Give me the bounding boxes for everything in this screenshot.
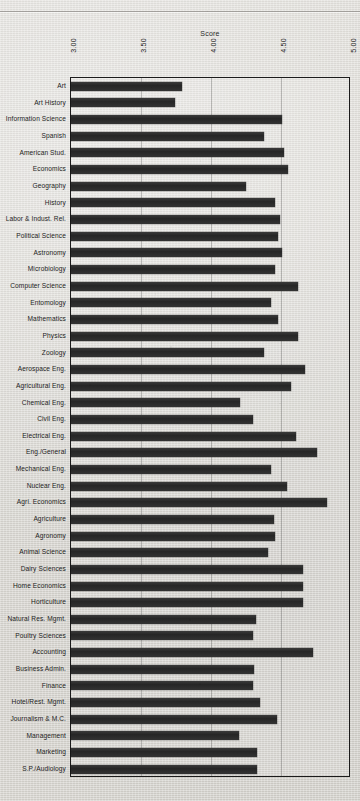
speck xyxy=(188,363,189,364)
bar-row: Information Science xyxy=(71,111,349,128)
speck xyxy=(241,738,242,739)
bar xyxy=(71,631,253,640)
bar xyxy=(71,82,182,91)
bar xyxy=(71,332,298,341)
bar xyxy=(71,148,284,157)
bar xyxy=(71,365,305,374)
speck xyxy=(284,600,285,601)
category-label: American Stud. xyxy=(0,150,71,157)
bar xyxy=(71,565,303,574)
bar-row: Art xyxy=(71,78,349,95)
speck xyxy=(310,438,312,440)
bar xyxy=(71,532,275,541)
x-tick-label: 5.00 xyxy=(350,38,357,53)
category-label: Agriculture xyxy=(0,516,71,523)
category-label: Accounting xyxy=(0,649,71,656)
speck xyxy=(56,719,57,720)
bar-row: Agronomy xyxy=(71,528,349,545)
category-label: Mechanical Eng. xyxy=(0,466,71,473)
bar xyxy=(71,665,254,674)
bar-row: Zoology xyxy=(71,345,349,362)
bar-row: Microbiology xyxy=(71,261,349,278)
category-label: Home Economics xyxy=(0,583,71,590)
speck xyxy=(149,238,150,239)
category-label: Nuclear Eng. xyxy=(0,483,71,490)
speck xyxy=(21,307,23,309)
speck xyxy=(0,226,1,227)
category-label: Dairy Sciences xyxy=(0,566,71,573)
speck xyxy=(43,658,44,659)
x-tick-label: 4.00 xyxy=(210,38,217,53)
speck xyxy=(114,176,115,177)
category-label: Political Science xyxy=(0,233,71,240)
speck xyxy=(254,477,256,479)
bar-row: Journalism & M.C. xyxy=(71,711,349,728)
category-label: Business Admin. xyxy=(0,666,71,673)
category-label: Finance xyxy=(0,683,71,690)
speck xyxy=(209,520,210,521)
speck xyxy=(207,10,208,11)
speck xyxy=(319,55,320,56)
bar xyxy=(71,265,275,274)
category-label: Chemical Eng. xyxy=(0,400,71,407)
bar xyxy=(71,432,296,441)
speck xyxy=(189,619,190,620)
bar-row: Natural Res. Mgmt. xyxy=(71,611,349,628)
bar-row: Mechanical Eng. xyxy=(71,461,349,478)
bar-row: Management xyxy=(71,728,349,745)
category-label: Poultry Sciences xyxy=(0,633,71,640)
bar xyxy=(71,382,291,391)
bar xyxy=(71,215,280,224)
bar-row: American Stud. xyxy=(71,145,349,162)
speck xyxy=(89,384,91,386)
category-label: Physics xyxy=(0,333,71,340)
speck xyxy=(105,674,106,675)
bar xyxy=(71,298,271,307)
bar xyxy=(71,465,271,474)
bar xyxy=(71,198,275,207)
speck xyxy=(155,293,156,294)
bar xyxy=(71,398,240,407)
bar-row: Nuclear Eng. xyxy=(71,478,349,495)
bar-row: Agri. Economics xyxy=(71,494,349,511)
category-label: Horticulture xyxy=(0,599,71,606)
bar-row: Geography xyxy=(71,178,349,195)
bar-row: Art History xyxy=(71,95,349,112)
speck xyxy=(163,619,164,620)
category-label: Eng./General xyxy=(0,449,71,456)
category-label: Agronomy xyxy=(0,533,71,540)
bar xyxy=(71,715,277,724)
speck xyxy=(99,489,100,490)
horizontal-bar-chart: Score 3.003.504.004.505.00 ArtArt Histor… xyxy=(0,0,360,801)
bar-row: Aerospace Eng. xyxy=(71,361,349,378)
bar-row: Horticulture xyxy=(71,594,349,611)
bar-row: Hotel/Rest. Mgmt. xyxy=(71,694,349,711)
category-label: Computer Science xyxy=(0,283,71,290)
x-axis-title: Score xyxy=(70,30,350,37)
speck xyxy=(44,683,45,684)
speck xyxy=(157,542,158,543)
bar xyxy=(71,98,175,107)
category-label: S.P./Audiology xyxy=(0,766,71,773)
category-label: Management xyxy=(0,733,71,740)
speck xyxy=(357,167,358,168)
speck xyxy=(260,594,261,595)
bar-row: Eng./General xyxy=(71,444,349,461)
bar-row: Electrical Eng. xyxy=(71,428,349,445)
speck xyxy=(214,465,215,466)
bar-row: Political Science xyxy=(71,228,349,245)
speck xyxy=(237,652,238,653)
bar-row: S.P./Audiology xyxy=(71,761,349,778)
bar-row: Astronomy xyxy=(71,245,349,262)
bar-row: Agricultural Eng. xyxy=(71,378,349,395)
category-label: Information Science xyxy=(0,116,71,123)
bar xyxy=(71,498,327,507)
category-label: Animal Science xyxy=(0,549,71,556)
speck xyxy=(275,468,276,469)
category-label: Labor & Indust. Rel. xyxy=(0,216,71,223)
category-label: Microbiology xyxy=(0,266,71,273)
bar xyxy=(71,582,303,591)
category-label: Electrical Eng. xyxy=(0,433,71,440)
category-label: Art xyxy=(0,83,71,90)
x-tick-label: 3.00 xyxy=(70,38,77,53)
